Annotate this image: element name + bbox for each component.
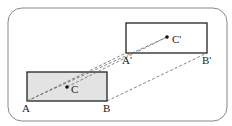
translation-diagram: C C' A B A' B' xyxy=(0,0,232,126)
label-A: A xyxy=(22,102,30,114)
label-B: B xyxy=(103,102,110,114)
label-B-prime: B' xyxy=(202,54,211,66)
label-A-prime: A' xyxy=(122,54,132,66)
label-C-prime: C' xyxy=(172,33,181,45)
label-C: C xyxy=(71,83,78,95)
point-C-prime xyxy=(165,35,169,39)
point-C xyxy=(65,85,69,89)
